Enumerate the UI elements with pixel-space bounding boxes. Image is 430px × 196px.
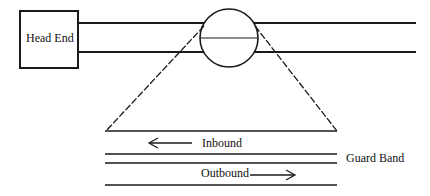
head-end-label: Head End	[26, 31, 74, 46]
inbound-label: Inbound	[202, 136, 242, 151]
outbound-label: Outbound	[201, 166, 249, 181]
guard-band-label: Guard Band	[346, 151, 404, 166]
zoom-right-dashed	[255, 26, 337, 131]
zoom-left-dashed	[106, 26, 204, 131]
